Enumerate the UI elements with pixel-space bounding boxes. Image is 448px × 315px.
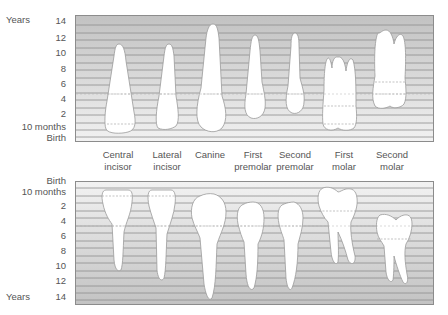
lower-teeth-chart <box>76 182 434 305</box>
upper-first-molar <box>323 57 357 130</box>
upper-tick-10-months: 10 months <box>0 121 66 132</box>
lower-tick-8: 8 <box>0 245 66 256</box>
lower-tick-2: 2 <box>0 200 66 211</box>
lower-axis-unit: Years <box>6 291 30 302</box>
upper-tick-4: 4 <box>0 93 66 104</box>
upper-second-molar <box>373 30 406 108</box>
lower-tick-10: 10 <box>0 260 66 271</box>
upper-tick-6: 6 <box>0 78 66 89</box>
upper-tick-14: 14 <box>0 15 66 26</box>
lower-tick-6: 6 <box>0 230 66 241</box>
upper-tick-birth: Birth <box>0 132 66 143</box>
upper-tick-8: 8 <box>0 63 66 74</box>
lower-tick-birth: Birth <box>0 175 66 186</box>
upper-teeth-chart <box>76 16 434 142</box>
upper-tick-2: 2 <box>0 108 66 119</box>
label-second-molar: Secondmolar <box>362 149 422 173</box>
lower-tick-10-months: 10 months <box>0 186 66 197</box>
upper-tick-12: 12 <box>0 32 66 43</box>
upper-teeth-panel <box>75 15 434 142</box>
lower-tick-4: 4 <box>0 215 66 226</box>
lower-teeth-panel <box>75 181 434 305</box>
lower-tick-12: 12 <box>0 275 66 286</box>
upper-tick-10: 10 <box>0 47 66 58</box>
